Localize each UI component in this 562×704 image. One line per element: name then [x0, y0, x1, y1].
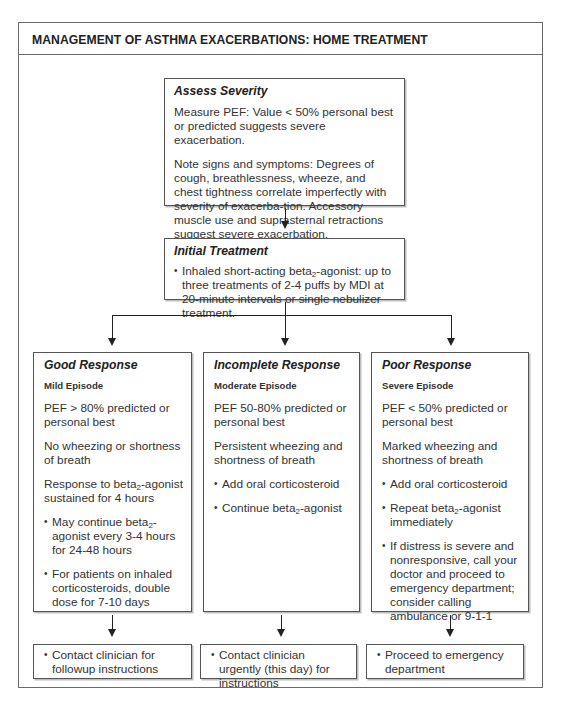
good-outcome-text: Contact clinician for followup instructi… [44, 648, 185, 676]
initial-treatment-title: Initial Treatment [174, 244, 396, 258]
good-symptoms-text: No wheezing or shortness of breath [44, 439, 185, 467]
connector-line [112, 315, 113, 339]
arrow-down-icon [446, 629, 454, 637]
poor-outcome-box: Proceed to emergency department [366, 644, 524, 679]
poor-pef-text: PEF < 50% predicted or personal best [382, 401, 522, 429]
incomplete-bullet-steroid: Add oral corticosteroid [214, 477, 353, 491]
good-bullet-inhaled: For patients on inhaled corticosteroids,… [44, 567, 185, 609]
arrow-down-icon [447, 338, 455, 346]
arrow-down-icon [281, 221, 289, 229]
connector-line [285, 302, 286, 338]
poor-bullet-distress: If distress is severe and nonresponsive,… [382, 539, 522, 623]
incomplete-bullet-continue: Continue beta2-agonist [214, 501, 353, 515]
good-response-title: Good Response [44, 358, 185, 372]
good-response-text: Response to beta2-agonist sustained for … [44, 477, 185, 505]
arrow-down-icon [281, 338, 289, 346]
severe-episode-label: Severe Episode [382, 379, 522, 393]
incomplete-symptoms-text: Persistent wheezing and shortness of bre… [214, 439, 353, 467]
good-outcome-box: Contact clinician for followup instructi… [33, 644, 192, 679]
connector-line [285, 208, 286, 222]
incomplete-pef-text: PEF 50-80% predicted or personal best [214, 401, 353, 429]
connector-line [112, 615, 113, 630]
connector-line [281, 615, 282, 630]
connector-line [451, 315, 452, 339]
incomplete-response-title: Incomplete Response [214, 358, 353, 372]
poor-symptoms-text: Marked wheezing and shortness of breath [382, 439, 522, 467]
initial-treatment-box: Initial Treatment Inhaled short-acting b… [164, 238, 405, 300]
arrow-down-icon [277, 629, 285, 637]
poor-response-title: Poor Response [382, 358, 522, 372]
arrow-down-icon [108, 629, 116, 637]
mild-episode-label: Mild Episode [44, 379, 185, 393]
moderate-episode-label: Moderate Episode [214, 379, 353, 393]
incomplete-response-box: Incomplete Response Moderate Episode PEF… [203, 352, 360, 612]
good-bullet-continue: May continue beta2-agonist every 3-4 hou… [44, 515, 185, 557]
poor-outcome-text: Proceed to emergency department [377, 648, 517, 676]
flowchart-title: MANAGEMENT OF ASTHMA EXACERBATIONS: HOME… [19, 23, 542, 55]
poor-bullet-steroid: Add oral corticosteroid [382, 477, 522, 491]
good-response-box: Good Response Mild Episode PEF > 80% pre… [33, 352, 192, 612]
good-pef-text: PEF > 80% predicted or personal best [44, 401, 185, 429]
assess-severity-title: Assess Severity [174, 84, 396, 98]
assess-severity-box: Assess Severity Measure PEF: Value < 50%… [164, 78, 405, 206]
incomplete-outcome-text: Contact clinician urgently (this day) fo… [211, 648, 350, 690]
incomplete-outcome-box: Contact clinician urgently (this day) fo… [200, 644, 357, 679]
branch-line [112, 315, 452, 316]
connector-line [450, 615, 451, 630]
poor-bullet-repeat: Repeat beta2-agonist immediately [382, 501, 522, 529]
poor-response-box: Poor Response Severe Episode PEF < 50% p… [371, 352, 529, 612]
arrow-down-icon [108, 338, 116, 346]
assess-pef-text: Measure PEF: Value < 50% personal best o… [174, 105, 396, 147]
